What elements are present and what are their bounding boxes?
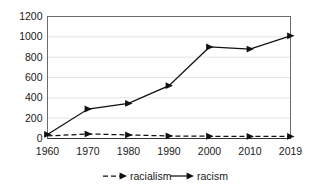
y-tick-label: 1200 (19, 10, 43, 22)
x-tick-label: 2019 (279, 145, 303, 157)
y-tick-label: 800 (25, 51, 43, 63)
chart-canvas: 020040060080010001200 196019701980199020… (0, 0, 315, 193)
legend-label-racialism: racialism (130, 170, 172, 182)
y-tick-label: 1000 (19, 30, 43, 42)
x-tick-label: 1960 (36, 145, 60, 157)
y-tick-label: 0 (37, 132, 43, 144)
x-tick-label: 1970 (76, 145, 100, 157)
y-tick-label: 600 (25, 71, 43, 83)
x-tick-label: 1980 (117, 145, 141, 157)
x-tick-label: 2000 (198, 145, 222, 157)
line-chart: 020040060080010001200 196019701980199020… (0, 0, 315, 193)
x-tick-label: 1990 (157, 145, 181, 157)
x-tick-label: 2010 (238, 145, 262, 157)
y-tick-label: 400 (25, 91, 43, 103)
y-tick-label: 200 (25, 112, 43, 124)
legend-label-racism: racism (197, 170, 228, 182)
